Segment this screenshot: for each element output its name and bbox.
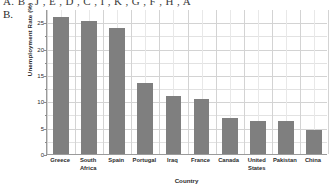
answer-line-text: A. B , J , E , D , C , I , K , G , F , H…	[0, 0, 332, 7]
x-tick-label: France	[187, 157, 215, 165]
plot-area: 0510152025	[46, 10, 327, 155]
y-tick-mark-minor	[45, 115, 47, 116]
bar	[109, 28, 125, 154]
y-tick-mark	[44, 76, 47, 77]
y-axis-title: Unemployment Rate (%)	[26, 0, 33, 105]
y-tick-mark-minor	[45, 89, 47, 90]
x-tick-label: South Africa	[74, 157, 102, 172]
y-tick-mark-minor	[45, 36, 47, 37]
y-tick-label: 20	[37, 47, 44, 53]
y-tick-mark	[44, 50, 47, 51]
y-tick-mark	[44, 155, 47, 156]
answer-line-clipped: A. B , J , E , D , C , I , K , G , F , H…	[0, 0, 332, 7]
bar-chart-figure: Unemployment Rate (%) 0510152025 GreeceS…	[0, 8, 332, 187]
x-tick-label: Canada	[215, 157, 243, 165]
y-tick-label: 10	[37, 99, 44, 105]
y-tick-mark-minor	[45, 142, 47, 143]
bar	[81, 21, 97, 154]
bar	[53, 17, 69, 154]
y-tick-mark	[44, 129, 47, 130]
x-tick-label: Spain	[102, 157, 130, 165]
bar-series	[47, 10, 327, 154]
y-tick-mark	[44, 102, 47, 103]
y-tick-label: 25	[37, 20, 44, 26]
x-tick-label: United States	[243, 157, 271, 172]
y-tick-mark	[44, 23, 47, 24]
figure-page: A. B , J , E , D , C , I , K , G , F , H…	[0, 0, 332, 187]
x-axis-title: Country	[46, 177, 327, 184]
y-tick-label: 15	[37, 73, 44, 79]
bar	[222, 118, 238, 154]
bar	[278, 121, 294, 154]
bar	[194, 99, 210, 154]
bar	[306, 130, 322, 154]
x-tick-label: Pakistan	[271, 157, 299, 165]
gridline-v	[328, 10, 329, 154]
x-tick-label: Portugal	[130, 157, 158, 165]
y-tick-mark-minor	[45, 63, 47, 64]
x-tick-label: Greece	[46, 157, 74, 165]
x-axis-tick-labels: GreeceSouth AfricaSpainPortugalIraqFranc…	[46, 157, 327, 179]
x-tick-label: China	[299, 157, 327, 165]
bar	[137, 83, 153, 154]
x-tick-label: Iraq	[158, 157, 186, 165]
bar	[250, 121, 266, 154]
bar	[166, 96, 182, 154]
